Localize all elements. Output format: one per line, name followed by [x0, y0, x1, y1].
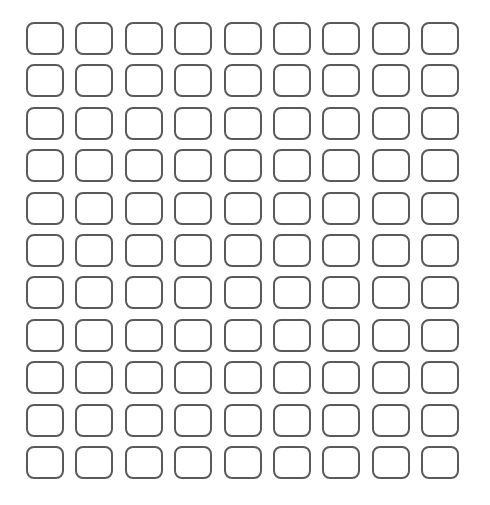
- grid-cell[interactable]: [26, 319, 64, 352]
- grid-cell[interactable]: [224, 234, 262, 267]
- grid-cell[interactable]: [372, 149, 410, 182]
- grid-cell[interactable]: [75, 107, 113, 140]
- grid-cell[interactable]: [421, 404, 459, 437]
- grid-cell[interactable]: [224, 64, 262, 97]
- grid-cell[interactable]: [26, 404, 64, 437]
- grid-cell[interactable]: [322, 22, 360, 55]
- grid-cell[interactable]: [224, 319, 262, 352]
- grid-cell[interactable]: [75, 22, 113, 55]
- grid-cell[interactable]: [224, 446, 262, 479]
- grid-cell[interactable]: [322, 361, 360, 394]
- grid-cell[interactable]: [125, 22, 163, 55]
- grid-cell[interactable]: [224, 107, 262, 140]
- grid-cell[interactable]: [75, 192, 113, 225]
- grid-cell[interactable]: [273, 192, 311, 225]
- grid-cell[interactable]: [174, 107, 212, 140]
- grid-cell[interactable]: [26, 64, 64, 97]
- grid-cell[interactable]: [273, 361, 311, 394]
- grid-cell[interactable]: [322, 64, 360, 97]
- grid-cell[interactable]: [224, 149, 262, 182]
- grid-cell[interactable]: [372, 319, 410, 352]
- grid-cell[interactable]: [174, 276, 212, 309]
- grid-cell[interactable]: [26, 107, 64, 140]
- grid-cell[interactable]: [174, 319, 212, 352]
- grid-cell[interactable]: [322, 234, 360, 267]
- rounded-square-grid: [26, 22, 459, 479]
- grid-cell[interactable]: [125, 446, 163, 479]
- grid-cell[interactable]: [125, 64, 163, 97]
- grid-cell[interactable]: [75, 361, 113, 394]
- grid-cell[interactable]: [421, 107, 459, 140]
- grid-cell[interactable]: [372, 234, 410, 267]
- grid-cell[interactable]: [421, 319, 459, 352]
- grid-cell[interactable]: [421, 64, 459, 97]
- grid-cell[interactable]: [421, 276, 459, 309]
- grid-cell[interactable]: [273, 107, 311, 140]
- grid-cell[interactable]: [322, 446, 360, 479]
- grid-cell[interactable]: [75, 276, 113, 309]
- grid-cell[interactable]: [26, 149, 64, 182]
- grid-cell[interactable]: [125, 192, 163, 225]
- grid-cell[interactable]: [273, 149, 311, 182]
- grid-cell[interactable]: [174, 446, 212, 479]
- grid-cell[interactable]: [322, 319, 360, 352]
- grid-cell[interactable]: [322, 149, 360, 182]
- grid-cell[interactable]: [75, 404, 113, 437]
- grid-cell[interactable]: [372, 64, 410, 97]
- grid-cell[interactable]: [372, 404, 410, 437]
- grid-cell[interactable]: [174, 361, 212, 394]
- grid-cell[interactable]: [174, 404, 212, 437]
- grid-cell[interactable]: [125, 404, 163, 437]
- grid-cell[interactable]: [273, 234, 311, 267]
- grid-cell[interactable]: [75, 234, 113, 267]
- grid-cell[interactable]: [224, 404, 262, 437]
- grid-cell[interactable]: [26, 276, 64, 309]
- grid-cell[interactable]: [125, 276, 163, 309]
- grid-cell[interactable]: [125, 107, 163, 140]
- grid-cell[interactable]: [174, 234, 212, 267]
- grid-cell[interactable]: [26, 446, 64, 479]
- grid-cell[interactable]: [224, 22, 262, 55]
- grid-cell[interactable]: [372, 107, 410, 140]
- grid-cell[interactable]: [26, 361, 64, 394]
- grid-cell[interactable]: [421, 22, 459, 55]
- grid-cell[interactable]: [421, 361, 459, 394]
- grid-cell[interactable]: [273, 22, 311, 55]
- grid-cell[interactable]: [273, 319, 311, 352]
- grid-cell[interactable]: [174, 149, 212, 182]
- grid-cell[interactable]: [125, 234, 163, 267]
- grid-cell[interactable]: [125, 319, 163, 352]
- grid-cell[interactable]: [26, 22, 64, 55]
- grid-cell[interactable]: [322, 107, 360, 140]
- grid-cell[interactable]: [421, 149, 459, 182]
- grid-cell[interactable]: [273, 64, 311, 97]
- grid-cell[interactable]: [372, 361, 410, 394]
- grid-cell[interactable]: [125, 361, 163, 394]
- grid-cell[interactable]: [224, 192, 262, 225]
- grid-cell[interactable]: [372, 276, 410, 309]
- grid-cell[interactable]: [174, 64, 212, 97]
- grid-cell[interactable]: [421, 234, 459, 267]
- grid-cell[interactable]: [322, 276, 360, 309]
- grid-cell[interactable]: [322, 404, 360, 437]
- grid-cell[interactable]: [372, 22, 410, 55]
- grid-cell[interactable]: [75, 149, 113, 182]
- grid-cell[interactable]: [26, 234, 64, 267]
- grid-cell[interactable]: [26, 192, 64, 225]
- grid-cell[interactable]: [273, 446, 311, 479]
- grid-cell[interactable]: [273, 276, 311, 309]
- grid-cell[interactable]: [421, 192, 459, 225]
- grid-cell[interactable]: [75, 64, 113, 97]
- grid-cell[interactable]: [75, 319, 113, 352]
- grid-cell[interactable]: [421, 446, 459, 479]
- grid-cell[interactable]: [273, 404, 311, 437]
- grid-cell[interactable]: [174, 192, 212, 225]
- grid-cell[interactable]: [322, 192, 360, 225]
- grid-cell[interactable]: [75, 446, 113, 479]
- grid-cell[interactable]: [224, 361, 262, 394]
- grid-cell[interactable]: [372, 446, 410, 479]
- grid-cell[interactable]: [125, 149, 163, 182]
- grid-cell[interactable]: [174, 22, 212, 55]
- grid-cell[interactable]: [372, 192, 410, 225]
- grid-cell[interactable]: [224, 276, 262, 309]
